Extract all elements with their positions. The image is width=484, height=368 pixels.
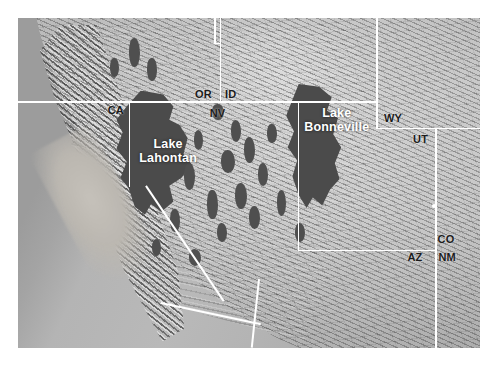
boundary-nv-id-jog: [214, 18, 216, 44]
boundary-ca-or-nv-north: [18, 101, 378, 103]
label-state-co: CO: [437, 234, 454, 246]
playa: [277, 190, 286, 216]
label-state-nm: NM: [438, 252, 456, 264]
playa: [217, 223, 227, 243]
playa: [249, 206, 260, 229]
playa: [110, 58, 118, 78]
map-point-marker: [432, 204, 436, 208]
playa: [207, 190, 217, 220]
boundary-id-jog: [214, 43, 220, 45]
label-lake-lahontan-line2: Lahontan: [139, 151, 197, 165]
boundary-wy-ut-co: [376, 128, 480, 130]
boundary-az-nm: [435, 250, 437, 348]
shaded-relief-map: Lake Lahontan Lake Bonneville OR ID CA N…: [18, 18, 480, 348]
label-state-ca: CA: [108, 105, 124, 117]
label-state-id: ID: [225, 89, 236, 101]
label-state-ut: UT: [413, 134, 428, 146]
label-state-or: OR: [195, 89, 212, 101]
label-state-wy: WY: [384, 113, 402, 125]
label-state-nv: NV: [210, 108, 226, 120]
relief-layer: [18, 18, 480, 348]
playa: [147, 58, 156, 81]
playa: [267, 124, 276, 144]
playa: [129, 38, 140, 68]
playa: [152, 239, 161, 256]
playa: [231, 120, 241, 141]
map-page: Lake Lahontan Lake Bonneville OR ID CA N…: [0, 0, 484, 368]
label-lake-bonneville-line1: Lake: [322, 106, 351, 120]
boundary-ut-co: [435, 128, 437, 250]
playa: [221, 150, 235, 173]
label-state-az: AZ: [407, 252, 422, 264]
label-lake-bonneville-line2: Bonneville: [304, 120, 369, 134]
label-lake-lahontan: Lake Lahontan: [131, 138, 205, 165]
boundary-or-id: [220, 18, 222, 101]
label-lake-bonneville: Lake Bonneville: [288, 107, 385, 134]
label-lake-lahontan-line1: Lake: [153, 137, 182, 151]
